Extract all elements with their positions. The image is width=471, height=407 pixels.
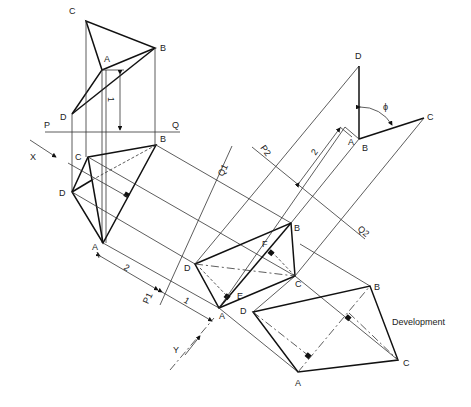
projector-b-dev [300, 244, 370, 286]
dim-tick [97, 252, 99, 258]
front-view-outline [72, 145, 156, 243]
aux2-label-d: D [355, 51, 362, 61]
aux1-f-to-c [272, 252, 294, 275]
aux2-label-c: C [427, 112, 434, 122]
auxiliary-view-2: D C A B ϕ [345, 51, 434, 153]
development-marker-2 [345, 314, 352, 321]
reference-label-p2: P2 [258, 143, 273, 158]
aux1-d-to-e [200, 268, 228, 297]
aux1-label-e: E [237, 291, 243, 301]
projector-d-aux1 [72, 192, 195, 264]
front-label-a: A [92, 242, 98, 252]
dev-label-b: B [374, 282, 380, 292]
aux2-label-b: B [362, 143, 368, 153]
development: D B C A Development [219, 244, 446, 388]
projector-b-aux1 [156, 145, 291, 223]
dim-2-arrow [100, 256, 158, 290]
dim-2-aux2-arrow [299, 128, 340, 183]
aux1-edge-ab [219, 223, 291, 308]
dev-label-a: A [295, 378, 301, 388]
development-c-perp [349, 313, 398, 360]
reference-label-q2: Q2 [356, 224, 372, 239]
top-label-c: C [69, 6, 76, 16]
dev-label-c: C [403, 358, 410, 368]
top-label-a: A [104, 54, 110, 64]
top-view: C B A D P Q 1 [44, 6, 180, 243]
geometry-diagram: C B A D P Q 1 X B C D A 2 1 Q1 P1 [0, 0, 471, 407]
aux2-projectors: 2 P2 Q2 [195, 66, 424, 312]
view-arrow-x-label: X [30, 152, 36, 162]
reference-label-q1: Q1 [216, 163, 230, 178]
aux2-dim-label-2: 2 [309, 147, 320, 157]
front-label-b: B [160, 134, 166, 144]
front-view: X B C D A [30, 134, 166, 252]
aux2-edge-bc [359, 118, 424, 139]
aux1-label-d: D [184, 263, 191, 273]
top-dim-label-1: 1 [106, 97, 116, 102]
projector-a-dev [219, 308, 298, 372]
top-view-edge-db [72, 48, 155, 114]
dev-label-d: D [240, 306, 247, 316]
reference-line-p2q2 [252, 147, 365, 239]
aux1-label-f: F [262, 239, 268, 249]
aux1-label-b: B [294, 223, 300, 233]
plane-label-q: Q [172, 120, 179, 130]
view-arrow-y-label: Y [173, 345, 179, 355]
view-arrow-y-line [170, 318, 214, 370]
top-label-d: D [60, 112, 67, 122]
projector-c-aux1 [88, 157, 295, 276]
top-label-b: B [160, 43, 166, 53]
aux2-label-a: A [348, 137, 354, 147]
view-arrow-y [185, 336, 200, 355]
plane-label-p: P [44, 120, 50, 130]
front-label-c: C [75, 152, 82, 162]
development-label: Development [392, 317, 446, 327]
dihedral-angle-label: ϕ [383, 102, 388, 112]
aux1-dim-label-2: 2 [122, 262, 131, 273]
front-label-d: D [59, 188, 66, 198]
reference-label-p1: P1 [141, 291, 155, 305]
